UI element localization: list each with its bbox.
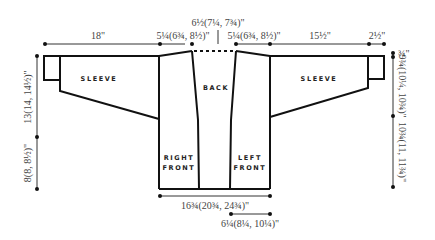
label-right-sleeve: SLEEVE <box>301 75 338 83</box>
dim-left-lower: 8(8, 8½)" <box>22 144 34 182</box>
label-right-front-line1: RIGHT <box>164 154 195 162</box>
label-left-front-line2: FRONT <box>234 164 267 172</box>
bottom-front-dimension <box>229 212 272 216</box>
label-left-sleeve: SLEEVE <box>81 75 118 83</box>
bottom-width-dimension <box>158 194 272 198</box>
dim-back-neck: 6½(7¼, 7¾)" <box>191 17 244 29</box>
left-vertical-dimension <box>35 54 39 191</box>
dim-right-lower: 10¾(11, 11¾)" <box>396 122 408 182</box>
dim-bottom-width: 16¾(20¾, 24¾)" <box>181 200 249 212</box>
dim-left-upper: 13(14, 14½)" <box>22 70 34 123</box>
label-right-front-line2: FRONT <box>163 164 196 172</box>
schematic-diagram: 18" 5¼(6¾, 8½)" 6½(7¼, 7¾)" 5¼(6¾, 8½)" … <box>0 0 435 240</box>
dim-left-sleeve-length: 18" <box>91 30 105 41</box>
right-vertical-dimension <box>391 51 395 189</box>
garment-outline <box>44 51 384 189</box>
label-left-front-line1: LEFT <box>238 154 262 162</box>
dim-bottom-front: 6¼(8¼, 10¼)" <box>221 218 279 230</box>
label-back: BACK <box>203 84 229 92</box>
dim-right-shoulder: 5¼(6¾, 8½)" <box>227 30 280 42</box>
dim-right-cuff: 2½" <box>369 30 386 41</box>
dim-left-shoulder: 5¼(6¾, 8½)" <box>156 30 209 42</box>
dim-right-upper: 9¾(10¼, 10¾)" <box>396 54 408 117</box>
dim-right-sleeve-length: 15½" <box>309 30 331 41</box>
